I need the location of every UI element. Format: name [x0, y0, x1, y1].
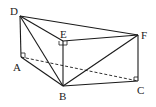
edge-EF [63, 35, 138, 41]
right-angle-mark-E2 [63, 41, 67, 45]
label-D: D [10, 5, 18, 17]
right-angle-mark-E [59, 41, 63, 45]
label-A: A [13, 61, 21, 73]
edge-DA [20, 16, 21, 57]
label-B: B [59, 90, 66, 102]
edge-DB [20, 16, 63, 86]
edge-BC [63, 81, 138, 86]
label-F: F [141, 29, 147, 41]
label-E: E [60, 28, 67, 40]
label-C: C [137, 84, 144, 96]
geometry-diagram: D E F A B C [0, 0, 156, 107]
edge-DF [20, 16, 138, 35]
